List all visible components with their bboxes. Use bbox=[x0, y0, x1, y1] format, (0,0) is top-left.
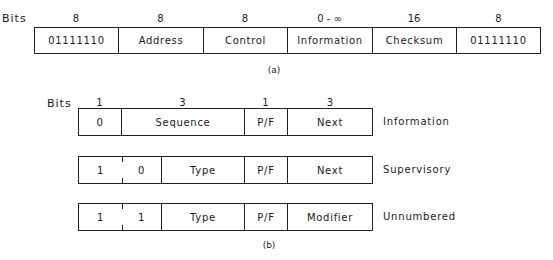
bits-label-a: Bits bbox=[2, 12, 27, 25]
bits-label-b: Bits bbox=[47, 97, 72, 110]
bits-count-3: 3 bbox=[121, 97, 244, 108]
frame-format-box: 01111110 Address Control Information Che… bbox=[34, 27, 541, 54]
bits-count-1: 1 bbox=[78, 97, 121, 108]
cell-bit0-value: 1 bbox=[97, 165, 104, 176]
bits-count-pf: 1 bbox=[244, 97, 287, 108]
cell-type: Type bbox=[162, 204, 245, 230]
caption-a: (a) bbox=[262, 65, 286, 75]
bits-count-information: 0 - ∞ bbox=[287, 13, 372, 24]
field-control: Control bbox=[204, 28, 288, 53]
bits-count-flag-start: 8 bbox=[34, 13, 118, 24]
caption-b: (b) bbox=[257, 240, 281, 250]
cell-next: Next bbox=[288, 157, 372, 183]
field-flag-end: 01111110 bbox=[457, 28, 540, 53]
cell-bit0: 1 bbox=[79, 204, 122, 230]
cell-pf: P/F bbox=[245, 109, 288, 135]
bits-count-checksum: 16 bbox=[372, 13, 456, 24]
cell-bit1: 0 bbox=[122, 157, 162, 183]
cell-sequence: Sequence bbox=[122, 109, 245, 135]
cell-bit0: 1 bbox=[79, 157, 122, 183]
cell-next: Next bbox=[288, 109, 372, 135]
field-address: Address bbox=[119, 28, 204, 53]
cell-pf: P/F bbox=[245, 204, 288, 230]
cell-type: Type bbox=[162, 157, 245, 183]
cell-pf: P/F bbox=[245, 157, 288, 183]
bits-count-next: 3 bbox=[287, 97, 373, 108]
unnumbered-frame-box: 1 1 Type P/F Modifier bbox=[78, 203, 373, 231]
row-label-supervisory: Supervisory bbox=[383, 164, 451, 175]
row-label-unnumbered: Unnumbered bbox=[383, 211, 456, 222]
field-checksum: Checksum bbox=[373, 28, 457, 53]
bits-count-control: 8 bbox=[203, 13, 287, 24]
field-flag-start: 01111110 bbox=[35, 28, 119, 53]
cell-bit0-value: 1 bbox=[97, 212, 104, 223]
cell-bit0: 0 bbox=[79, 109, 122, 135]
bits-count-address: 8 bbox=[118, 13, 203, 24]
information-frame-box: 0 Sequence P/F Next bbox=[78, 108, 373, 136]
cell-bit1: 1 bbox=[122, 204, 162, 230]
bits-count-flag-end: 8 bbox=[456, 13, 541, 24]
supervisory-frame-box: 1 0 Type P/F Next bbox=[78, 156, 373, 184]
field-information: Information bbox=[288, 28, 373, 53]
cell-modifier: Modifier bbox=[288, 204, 372, 230]
row-label-information: Information bbox=[383, 116, 450, 127]
